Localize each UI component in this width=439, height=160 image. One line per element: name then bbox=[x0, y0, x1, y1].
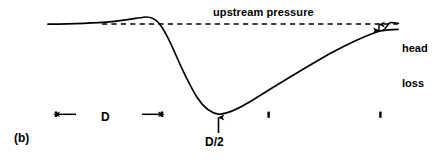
diameter-label: D bbox=[101, 111, 110, 124]
head-loss-label: head loss bbox=[402, 19, 428, 114]
head-loss-label-line2: loss bbox=[402, 78, 428, 90]
upstream-pressure-label: upstream pressure bbox=[213, 7, 314, 19]
half-diameter-label: D/2 bbox=[205, 136, 224, 149]
figure-container: upstream pressure head loss D D/2 (b) bbox=[0, 0, 439, 160]
pressure-profile-curve bbox=[48, 17, 398, 114]
station-tick-1 bbox=[267, 112, 269, 118]
station-tick-2 bbox=[379, 112, 381, 118]
panel-label: (b) bbox=[14, 132, 29, 145]
head-loss-label-line1: head bbox=[402, 43, 428, 55]
